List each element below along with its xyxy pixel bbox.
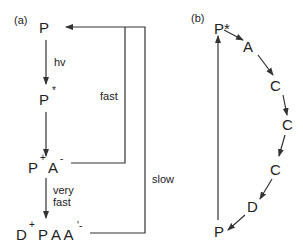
node-c1: C	[270, 77, 281, 94]
node-c3: C	[270, 161, 281, 178]
cs2-d-plus: +	[29, 219, 35, 230]
cs2-a-prime-minus: '-	[77, 220, 82, 231]
cs1-a: A	[48, 159, 58, 176]
arrow-c2-c3	[279, 135, 285, 156]
panel-b-label: (b)	[191, 12, 204, 24]
cs1-a-minus: -	[60, 153, 63, 164]
excited-star: *	[52, 85, 56, 96]
node-d: D	[247, 198, 258, 215]
arrow-c1-c2	[283, 95, 287, 115]
fast-label: fast	[100, 90, 118, 102]
cs1-p: P	[28, 159, 38, 176]
cs2-paa: P A A	[38, 226, 74, 243]
node-c2: C	[282, 116, 293, 133]
very-fast-label-line2: fast	[53, 196, 71, 208]
ground-state-p: P	[39, 19, 49, 36]
very-fast-label-line1: very	[53, 184, 74, 196]
node-p-star: P*	[214, 20, 230, 37]
node-a: A	[243, 38, 253, 55]
slow-label: slow	[152, 173, 174, 185]
excited-state-p: P	[39, 91, 49, 108]
node-p: P	[214, 223, 224, 240]
panel-a-label: (a)	[14, 14, 27, 26]
panel-a: (a) P hv P * P + A - very fast D + P A A…	[14, 14, 174, 243]
panel-b: (b) P* A C C C D P	[191, 12, 293, 240]
arrow-c3-d	[260, 179, 272, 199]
diagram-canvas: (a) P hv P * P + A - very fast D + P A A…	[0, 0, 303, 252]
slow-recombination-path	[66, 27, 145, 233]
excitation-label: hv	[54, 56, 66, 68]
arrow-d-p	[228, 215, 245, 230]
cs2-d: D	[16, 226, 27, 243]
cs1-p-plus: +	[40, 152, 46, 163]
arrow-a-c1	[258, 55, 273, 75]
